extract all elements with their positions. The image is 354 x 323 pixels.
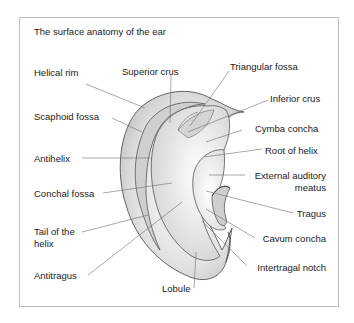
label-tail-of-helix-1: Tail of the	[34, 226, 75, 237]
label-cavum-concha: Cavum concha	[263, 233, 326, 244]
label-lobule: Lobule	[162, 283, 191, 294]
label-tragus: Tragus	[297, 208, 326, 219]
label-external-auditory-meatus-2: meatus	[295, 182, 326, 193]
label-tail-of-helix-2: helix	[34, 238, 54, 249]
label-external-auditory-meatus-1: External auditory	[255, 170, 326, 181]
label-antihelix: Antihelix	[34, 153, 70, 164]
label-inferior-crus: Inferior crus	[270, 93, 320, 104]
label-antitragus: Antitragus	[34, 270, 77, 281]
label-helical-rim: Helical rim	[34, 67, 78, 78]
label-cymba-concha: Cymba concha	[255, 123, 318, 134]
label-root-of-helix: Root of helix	[265, 145, 318, 156]
label-conchal-fossa: Conchal fossa	[34, 188, 94, 199]
label-superior-crus: Superior crus	[122, 66, 179, 77]
label-intertragal-notch: Intertragal notch	[257, 262, 326, 273]
label-triangular-fossa: Triangular fossa	[230, 61, 298, 72]
label-scaphoid-fossa: Scaphoid fossa	[34, 111, 99, 122]
